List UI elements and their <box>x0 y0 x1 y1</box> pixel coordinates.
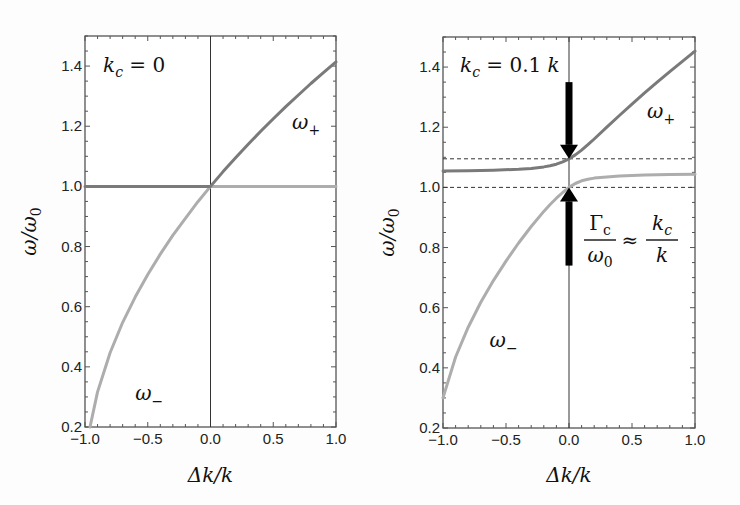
x-tick-label: 1.0 <box>685 431 706 448</box>
figure: −1.0−0.50.00.51.00.20.40.60.81.01.21.4ω+… <box>0 0 740 505</box>
x-tick-label: 1.0 <box>326 430 347 447</box>
x-tick-label: 0.0 <box>200 430 221 447</box>
y-tick-label: 0.2 <box>61 418 82 435</box>
y-tick-label: 0.2 <box>419 419 440 436</box>
y-tick-label: 1.2 <box>61 117 82 134</box>
x-tick-label: 0.5 <box>263 430 284 447</box>
y-tick-label: 1.4 <box>419 58 440 75</box>
x-axis-label: Δk/k <box>545 463 591 487</box>
y-tick-label: 1.0 <box>61 177 82 194</box>
right-panel: −1.0−0.50.00.51.00.20.40.60.81.01.21.4ω+… <box>375 37 705 487</box>
y-tick-label: 0.6 <box>61 298 82 315</box>
y-axis-label: ω/ω0 <box>17 207 44 255</box>
y-tick-label: 1.2 <box>419 118 440 135</box>
y-tick-label: 0.8 <box>419 239 440 256</box>
x-tick-label: −0.5 <box>491 431 521 448</box>
formula-denominator-k: k <box>656 243 668 267</box>
y-tick-label: 1.0 <box>419 178 440 195</box>
left-panel: −1.0−0.50.00.51.00.20.40.60.81.01.21.4ω+… <box>17 36 346 487</box>
y-tick-label: 0.6 <box>419 299 440 316</box>
panel-annotation: kc = 0 <box>103 53 165 80</box>
x-tick-label: 0.5 <box>622 431 643 448</box>
approx-sign: ≈ <box>622 228 639 252</box>
y-tick-label: 0.4 <box>419 359 440 376</box>
x-tick-label: 0.0 <box>559 431 580 448</box>
y-axis-label: ω/ω0 <box>375 208 402 256</box>
y-tick-label: 1.4 <box>61 57 82 74</box>
y-tick-label: 0.4 <box>61 358 82 375</box>
x-tick-label: −0.5 <box>133 430 163 447</box>
y-tick-label: 0.8 <box>61 238 82 255</box>
x-axis-label: Δk/k <box>187 463 233 487</box>
